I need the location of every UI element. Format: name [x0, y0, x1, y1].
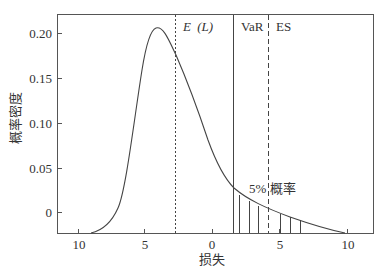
- y-tick-label: 0.10: [29, 116, 52, 131]
- x-tick-label: 10: [73, 237, 86, 252]
- tail-probability-label: 5% 概率: [249, 181, 296, 196]
- x-axis: [79, 229, 348, 233]
- tail-hatch: [240, 195, 301, 233]
- density-curve: [91, 28, 345, 233]
- x-tick-label: 10: [342, 237, 355, 252]
- y-tick-label: 0.15: [29, 71, 52, 86]
- x-tick-label: 0: [209, 237, 216, 252]
- plot-frame: [58, 15, 374, 234]
- y-axis-label: 概率密度: [8, 92, 23, 144]
- expected-loss-l: (L): [197, 19, 213, 34]
- var-label: VaR: [241, 19, 264, 34]
- y-tick-label: 0: [46, 205, 53, 220]
- x-tick-label: 5: [277, 237, 284, 252]
- expected-loss-label: E (L): [182, 19, 213, 34]
- x-axis-label: 损失: [199, 252, 225, 267]
- x-tick-label: 5: [142, 237, 149, 252]
- loss-distribution-chart: 0.20 0.15 0.10 0.05 0 概率密度 10 5 0 5 10 损…: [0, 0, 386, 272]
- y-tick-label: 0.20: [29, 26, 52, 41]
- y-tick-label: 0.05: [29, 161, 52, 176]
- es-label: ES: [276, 19, 291, 34]
- y-axis: [58, 34, 63, 213]
- expected-loss-e: E: [182, 19, 191, 34]
